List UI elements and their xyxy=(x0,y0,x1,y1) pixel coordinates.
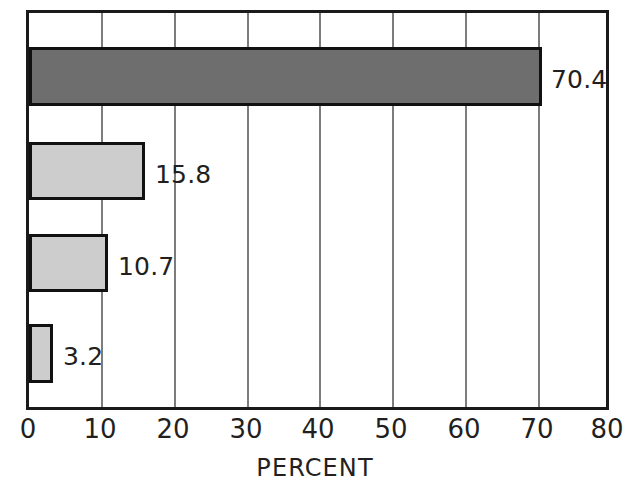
x-axis-tick-labels: 0 10 20 30 40 50 60 70 80 xyxy=(26,416,609,448)
x-tick-40: 40 xyxy=(301,416,334,442)
bar-value-3: 10.7 xyxy=(118,254,174,279)
x-axis-title: PERCENT xyxy=(0,456,630,480)
bars-layer: 70.4 15.8 10.7 3.2 xyxy=(29,13,606,407)
bar-4 xyxy=(29,324,53,383)
plot-area: 70.4 15.8 10.7 3.2 xyxy=(26,10,609,410)
x-tick-20: 20 xyxy=(156,416,189,442)
x-tick-50: 50 xyxy=(374,416,407,442)
x-tick-70: 70 xyxy=(520,416,553,442)
bar-value-2: 15.8 xyxy=(155,162,211,187)
x-tick-80: 80 xyxy=(590,416,623,442)
x-tick-30: 30 xyxy=(229,416,262,442)
x-tick-0: 0 xyxy=(20,416,37,442)
bar-2 xyxy=(29,142,145,200)
bar-chart: 70.4 15.8 10.7 3.2 0 10 20 30 40 50 60 7… xyxy=(0,0,630,491)
bar-1 xyxy=(29,47,542,106)
bar-value-1: 70.4 xyxy=(551,67,607,92)
bar-3 xyxy=(29,234,108,292)
x-tick-10: 10 xyxy=(83,416,116,442)
bar-value-4: 3.2 xyxy=(63,344,103,369)
x-tick-60: 60 xyxy=(447,416,480,442)
